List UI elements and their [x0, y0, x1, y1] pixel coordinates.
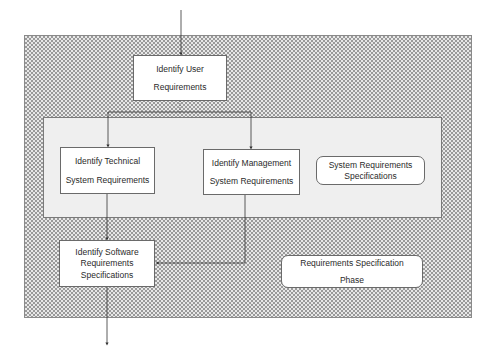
- node-label: Specifications: [81, 271, 133, 280]
- node-label: Identify Management: [212, 159, 291, 168]
- node-label: System Requirements: [66, 176, 150, 185]
- node-label: Requirements: [154, 83, 207, 92]
- node-label: System Requirements: [329, 161, 413, 170]
- node-label: Identify Technical: [75, 157, 140, 166]
- node-identify-technical-system-requirements: Identify Technical System Requirements: [60, 147, 155, 194]
- node-label: System Requirements: [210, 177, 294, 186]
- node-label: Specifications: [344, 172, 396, 181]
- phase-label: Phase: [340, 276, 364, 285]
- label-requirements-specification-phase: Requirements Specification Phase: [281, 255, 423, 288]
- node-label: Requirements: [81, 259, 134, 268]
- label-system-requirements-specifications: System Requirements Specifications: [316, 156, 425, 185]
- node-identify-user-requirements: Identify User Requirements: [133, 55, 227, 101]
- phase-label: Requirements Specification: [300, 259, 403, 268]
- node-label: Identify User: [156, 65, 204, 74]
- node-label: Identify Software: [75, 248, 138, 257]
- node-identify-software-requirements-specifications: Identify Software Requirements Specifica…: [59, 240, 155, 287]
- node-identify-management-system-requirements: Identify Management System Requirements: [203, 149, 300, 195]
